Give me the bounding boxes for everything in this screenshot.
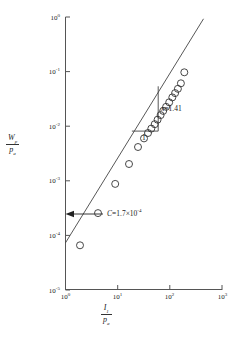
y-tick-label-2: 10-2 [30,122,60,131]
x-axis-label: I1 pa [101,303,112,326]
intercept-label: C=1.7×10-4 [107,208,142,218]
data-point [77,242,84,249]
y-axis-label: Wp pa [6,133,19,156]
x-tick-label-2: 102 [157,292,182,301]
slope-triangle [132,86,158,131]
data-point [112,180,119,187]
data-point [95,210,102,217]
x-tick-label-1: 101 [105,292,130,301]
y-axis-ticks [66,17,71,290]
x-tick-label-0: 100 [53,292,78,301]
x-tick-label-3: 103 [210,292,235,301]
y-tick-label-3: 10-3 [30,176,60,185]
y-tick-label-0: 100 [30,13,60,22]
data-point [135,144,142,151]
slope-run-label: 1 [142,133,146,142]
data-point [126,161,133,168]
data-points [77,69,188,249]
y-tick-label-4: 10-4 [30,231,60,240]
data-point [177,80,184,87]
log-log-chart: 100 10-1 10-2 10-3 10-4 10-5 100 101 102… [0,0,248,340]
slope-rise-label: x=1.41 [161,104,182,113]
data-point [181,69,188,76]
y-tick-label-1: 10-1 [30,67,60,76]
